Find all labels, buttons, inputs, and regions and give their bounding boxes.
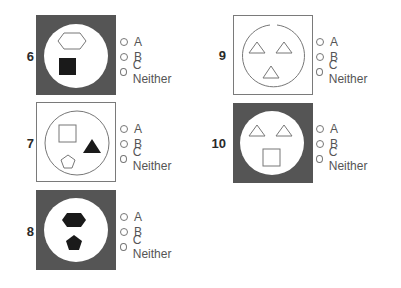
- radio-icon[interactable]: [120, 53, 128, 61]
- option-label: A: [134, 122, 142, 136]
- radio-icon[interactable]: [120, 140, 128, 148]
- option-a[interactable]: A: [316, 121, 369, 136]
- triangle-icon: [249, 42, 265, 53]
- radio-icon[interactable]: [316, 125, 324, 133]
- circle-shape: [240, 111, 304, 175]
- option-a[interactable]: A: [120, 121, 173, 136]
- radio-icon[interactable]: [120, 38, 128, 46]
- option-c[interactable]: C Neither: [120, 239, 173, 254]
- figure-drawing: [233, 103, 313, 183]
- figure-box: [233, 15, 313, 95]
- hexagon-icon: [58, 33, 86, 49]
- option-a[interactable]: A: [120, 34, 173, 49]
- option-label: A: [134, 210, 142, 224]
- option-label: A: [330, 122, 338, 136]
- radio-icon[interactable]: [316, 155, 323, 163]
- option-c[interactable]: C Neither: [120, 151, 173, 166]
- answer-options: A B C Neither: [120, 121, 173, 166]
- pentagon-icon: [61, 155, 75, 168]
- radio-icon[interactable]: [316, 38, 324, 46]
- option-c[interactable]: C Neither: [120, 64, 173, 79]
- option-c[interactable]: C Neither: [316, 64, 369, 79]
- radio-icon[interactable]: [120, 243, 127, 251]
- option-c[interactable]: C Neither: [316, 151, 369, 166]
- answer-options: A B C Neither: [120, 209, 173, 254]
- option-label: C Neither: [133, 58, 173, 86]
- figure-drawing: [234, 16, 314, 96]
- answer-options: A B C Neither: [120, 34, 173, 79]
- question-number: 8: [14, 224, 34, 239]
- circle-shape: [45, 111, 109, 175]
- question-number: 10: [206, 136, 226, 151]
- radio-icon[interactable]: [316, 140, 324, 148]
- figure-box: [233, 103, 313, 183]
- question-number: 6: [14, 49, 34, 64]
- question-number: 9: [206, 48, 226, 63]
- option-a[interactable]: A: [120, 209, 173, 224]
- figure-drawing: [37, 103, 117, 183]
- figure-drawing: [36, 15, 116, 95]
- circle-shape: [44, 198, 108, 262]
- triangle-icon: [263, 66, 279, 78]
- figure-drawing: [36, 190, 116, 270]
- square-icon: [59, 58, 76, 75]
- option-label: C Neither: [329, 58, 369, 86]
- answer-options: A B C Neither: [316, 34, 369, 79]
- triangle-icon: [276, 42, 292, 53]
- radio-icon[interactable]: [316, 68, 323, 76]
- option-label: C Neither: [133, 145, 173, 173]
- square-icon: [59, 125, 76, 142]
- hexagon-icon: [62, 213, 86, 227]
- triangle-icon: [83, 139, 101, 153]
- figure-box: [36, 102, 116, 182]
- figure-box: [36, 190, 116, 270]
- option-a[interactable]: A: [316, 34, 369, 49]
- option-label: A: [134, 35, 142, 49]
- radio-icon[interactable]: [120, 125, 128, 133]
- option-label: C Neither: [133, 233, 173, 261]
- answer-options: A B C Neither: [316, 121, 369, 166]
- figure-box: [36, 15, 116, 95]
- option-label: C Neither: [329, 145, 369, 173]
- radio-icon[interactable]: [120, 213, 128, 221]
- radio-icon[interactable]: [120, 68, 127, 76]
- question-number: 7: [14, 136, 34, 151]
- radio-icon[interactable]: [120, 155, 127, 163]
- radio-icon[interactable]: [316, 53, 324, 61]
- radio-icon[interactable]: [120, 228, 128, 236]
- option-label: A: [330, 35, 338, 49]
